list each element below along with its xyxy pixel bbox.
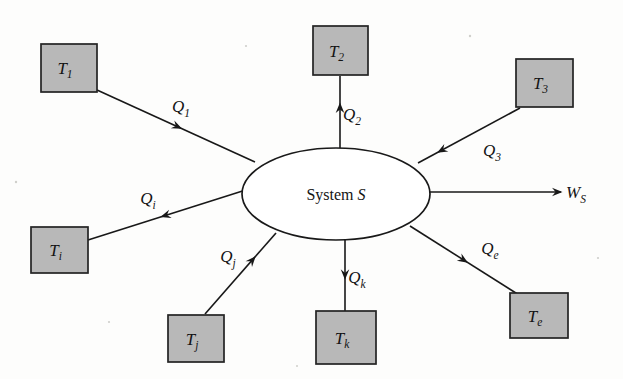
flow-q2-label: Q2 <box>343 105 361 127</box>
flow-qi <box>88 188 252 240</box>
reservoir-box-tj[interactable]: Tj <box>168 315 224 362</box>
diagram-canvas: System S T1T2T3TiTjTkTe Q1Q2Q3QiQjQkQeWS <box>0 0 623 379</box>
flow-qj <box>205 233 276 314</box>
reservoir-box-t2[interactable]: T2 <box>313 26 368 75</box>
reservoir-box-t1[interactable]: T1 <box>41 44 97 92</box>
flow-q3-arrowhead <box>435 144 448 157</box>
flow-q3 <box>418 108 520 163</box>
flow-q3-line <box>418 108 520 163</box>
flow-qi-arrowhead <box>159 210 172 221</box>
flow-work-ws-label: WS <box>566 183 586 205</box>
reservoir-box-ti[interactable]: Ti <box>31 227 88 273</box>
flow-q1-arrowhead <box>171 121 184 133</box>
flow-qj-label: Qj <box>220 247 235 270</box>
reservoir-box-te[interactable]: Te <box>510 293 568 338</box>
flow-q1-label: Q1 <box>172 97 190 119</box>
flow-qe-arrowhead <box>457 253 470 266</box>
flow-qe-label: Qe <box>481 239 498 261</box>
reservoir-box-t3[interactable]: T3 <box>516 59 573 107</box>
flow-q3-label: Q3 <box>483 141 501 163</box>
flow-qj-line <box>205 233 276 314</box>
reservoir-box-tk[interactable]: Tk <box>316 311 376 364</box>
heat-interaction-diagram: System S T1T2T3TiTjTkTe Q1Q2Q3QiQjQkQeWS <box>0 0 623 379</box>
flow-qe <box>410 226 519 295</box>
system-label: System S <box>306 186 365 204</box>
system-node[interactable]: System S <box>242 148 430 240</box>
flow-qi-label: Qi <box>140 189 155 211</box>
flow-qi-line <box>88 188 252 240</box>
flow-qk-label: Qk <box>348 268 366 290</box>
flow-work-ws <box>430 188 563 197</box>
